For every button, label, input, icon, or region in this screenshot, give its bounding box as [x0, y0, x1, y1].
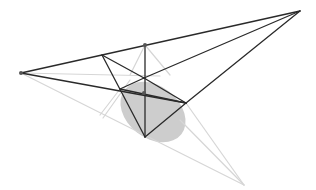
construction-line — [145, 45, 170, 75]
construction-line — [130, 45, 145, 75]
main-line — [186, 11, 300, 103]
point-dot — [142, 91, 146, 95]
main-line — [144, 11, 300, 78]
geometry-diagram — [0, 0, 316, 190]
construction-line — [186, 103, 244, 185]
ellipse-shape — [109, 69, 198, 154]
diagram-svg — [0, 0, 316, 190]
construction-line — [180, 120, 244, 185]
point-dot — [143, 43, 147, 47]
shaded-ellipse — [109, 69, 198, 154]
point-dot — [19, 71, 23, 75]
construction-line — [100, 89, 120, 115]
